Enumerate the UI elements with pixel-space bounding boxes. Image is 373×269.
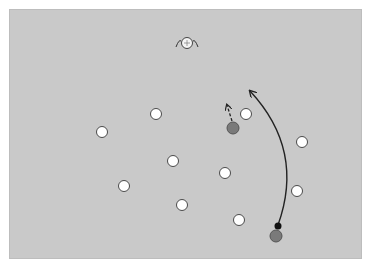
white-markers	[97, 109, 308, 226]
white-player-marker	[297, 137, 308, 148]
white-player-marker	[220, 168, 231, 179]
white-player-marker	[168, 156, 179, 167]
white-player-marker	[292, 186, 303, 197]
white-player-marker	[241, 109, 252, 120]
white-player-marker	[177, 200, 188, 211]
dashed-run-arrow	[227, 105, 232, 121]
goal-marker-icon	[176, 38, 198, 49]
black-dots	[275, 223, 282, 230]
curved-pass-arrow	[250, 91, 287, 225]
gray-player-marker	[270, 230, 282, 242]
gray-player-marker	[227, 122, 239, 134]
white-player-marker	[97, 127, 108, 138]
white-player-marker	[151, 109, 162, 120]
diagram-overlay	[0, 0, 373, 269]
white-player-marker	[234, 215, 245, 226]
ball-marker	[275, 223, 282, 230]
white-player-marker	[119, 181, 130, 192]
